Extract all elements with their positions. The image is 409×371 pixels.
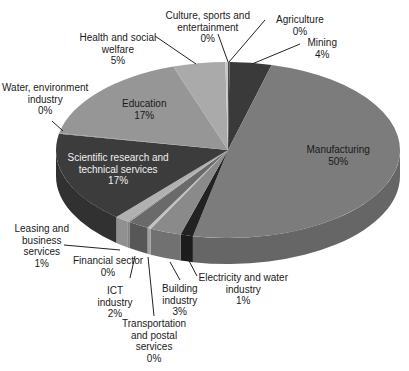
leader-line-leasing-and-business-services: [64, 245, 120, 250]
label-text: services: [15, 246, 70, 258]
label-percent: 17%: [122, 110, 166, 122]
label-text: and postal: [122, 330, 186, 342]
label-text: Education: [122, 98, 166, 110]
label-percent: 17%: [68, 175, 169, 187]
label-text: Financial sector: [73, 255, 143, 267]
label-culture-sports-and-entertainment: Culture, sports andentertainment0%: [166, 10, 251, 45]
label-text: Health and social: [80, 32, 157, 44]
label-text: services: [122, 341, 186, 353]
label-transportation-and-postal-services: Transportationand postalservices0%: [122, 318, 186, 364]
label-text: Water, environment: [2, 82, 88, 94]
label-text: industry: [199, 284, 288, 296]
label-percent: 0%: [2, 105, 88, 117]
label-building-industry: Buildingindustry3%: [162, 283, 198, 318]
leader-line-mining: [252, 44, 300, 64]
label-percent: 0%: [166, 33, 251, 45]
label-percent: 1%: [199, 295, 288, 307]
slice-side-financial-sector: [127, 221, 129, 248]
label-text: technical services: [68, 164, 169, 176]
label-percent: 3%: [162, 306, 198, 318]
slice-side-leasing-and-business-services: [116, 217, 127, 247]
label-financial-sector: Financial sector0%: [73, 255, 143, 278]
label-percent: 0%: [73, 267, 143, 279]
label-percent: 50%: [307, 156, 370, 168]
label-health-and-social-welfare: Health and socialwelfare5%: [80, 32, 157, 67]
label-text: industry: [162, 295, 198, 307]
label-text: welfare: [80, 44, 157, 56]
label-percent: 0%: [122, 353, 186, 365]
label-text: Electricity and water: [199, 272, 288, 284]
label-text: industry: [2, 94, 88, 106]
label-mining: Mining4%: [308, 37, 337, 60]
label-text: Building: [162, 283, 198, 295]
label-electricity-and-water-industry: Electricity and waterindustry1%: [199, 272, 288, 307]
label-text: ICT: [98, 285, 133, 297]
label-percent: 4%: [308, 49, 337, 61]
label-water-environment-industry: Water, environmentindustry0%: [2, 82, 88, 117]
label-scientific-research-and-technical-services: Scientific research andtechnical service…: [68, 152, 169, 187]
slice-side-transportation-and-postal-services: [148, 228, 151, 255]
label-percent: 2%: [98, 308, 133, 320]
label-text: Leasing and: [15, 223, 70, 235]
label-text: Mining: [308, 37, 337, 49]
label-ict-industry: ICTindustry2%: [98, 285, 133, 320]
label-percent: 1%: [15, 258, 70, 270]
label-text: industry: [98, 297, 133, 309]
leader-line-building-industry: [170, 262, 180, 280]
leader-line-water-environment-industry: [52, 121, 63, 131]
label-percent: 0%: [276, 26, 324, 38]
label-text: Scientific research and: [68, 152, 169, 164]
label-percent: 5%: [80, 55, 157, 67]
label-text: Culture, sports and: [166, 10, 251, 22]
label-text: entertainment: [166, 22, 251, 34]
label-text: Manufacturing: [307, 144, 370, 156]
label-text: Transportation: [122, 318, 186, 330]
label-manufacturing: Manufacturing50%: [307, 144, 370, 167]
label-text: Agriculture: [276, 14, 324, 26]
pie-chart: [0, 0, 409, 371]
label-education: Education17%: [122, 98, 166, 121]
label-text: business: [15, 235, 70, 247]
label-leasing-and-business-services: Leasing andbusinessservices1%: [15, 223, 70, 269]
label-agriculture: Agriculture0%: [276, 14, 324, 37]
leader-line-transportation-and-postal-services: [148, 257, 154, 316]
slice-side-electricity-and-water-industry: [181, 235, 193, 263]
